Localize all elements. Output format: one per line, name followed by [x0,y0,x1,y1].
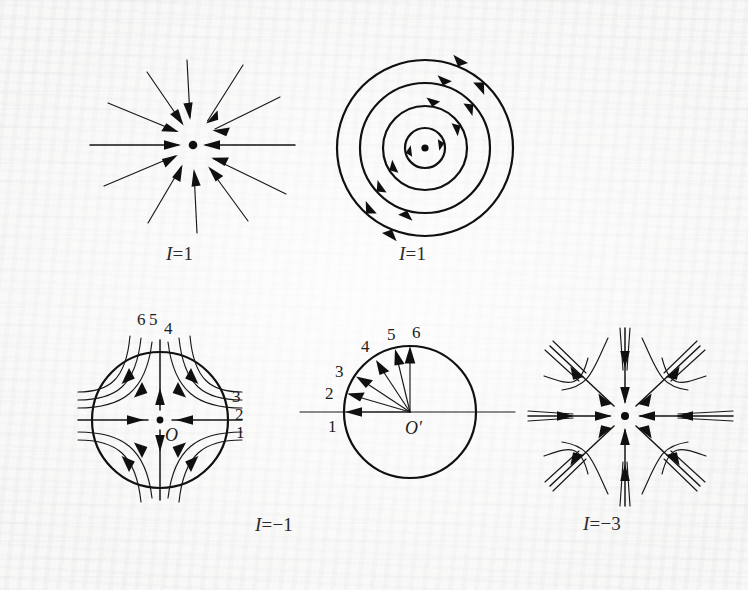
caption-vortex: I=1 [399,243,426,265]
hodograph-label-1: 1 [328,418,337,435]
caption-monkey: I=−3 [583,513,621,535]
node-center-dot [189,141,198,150]
figure-root: I=1 [0,0,748,590]
panel-hodograph: 1 2 3 4 5 6 O′ [300,330,520,495]
saddle-label-3: 3 [232,388,241,405]
hodograph-label-3: 3 [335,363,344,380]
hodograph-label-2: 2 [325,385,334,402]
saddle-label-6: 6 [137,311,146,328]
caption-node: I=1 [166,243,193,265]
panel-monkey-saddle [528,328,738,508]
hodograph-label-4: 4 [361,338,370,355]
caption-saddle: I=−1 [255,514,293,536]
caption-vortex-value: =1 [406,243,427,264]
radial-node-diagram [90,55,300,240]
hodograph-label-5: 5 [387,326,396,343]
saddle-label-4: 4 [164,320,173,337]
vortex-center-dot [421,144,428,151]
saddle-diagram [78,330,278,510]
monkey-saddle-diagram [528,328,738,508]
caption-saddle-value: =−1 [262,514,294,535]
panel-saddle: 3 2 1 6 5 4 O [78,330,278,510]
hodograph-label-6: 6 [412,324,421,341]
saddle-center-dot [157,417,164,424]
saddle-origin-label: O [165,426,178,444]
center-vortex-diagram [325,52,525,244]
saddle-label-1: 1 [236,424,245,441]
caption-monkey-value: =−3 [590,513,622,534]
hodograph-origin-label: O′ [405,419,422,437]
panel-radial-node [90,55,300,240]
hodograph-diagram [300,330,520,495]
saddle-label-2: 2 [235,406,244,423]
saddle-label-5: 5 [149,311,158,328]
panel-center-vortex [325,52,525,244]
monkey-saddle-center-dot [621,412,629,420]
caption-node-value: =1 [173,243,194,264]
hodograph-vectors [345,346,415,417]
